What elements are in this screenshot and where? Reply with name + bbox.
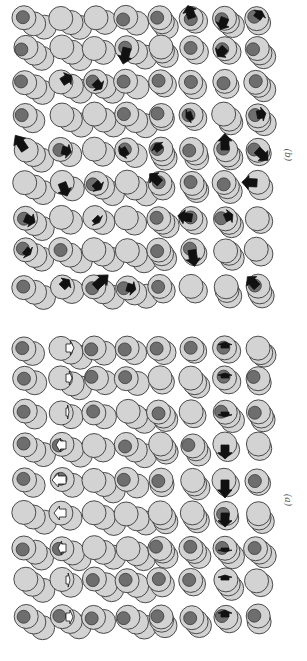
panel-label-a: (a)	[283, 494, 293, 506]
panel-b: (b)	[0, 0, 307, 330]
panel-a: (a)	[0, 330, 307, 661]
disk-array-b	[0, 0, 307, 330]
panel-label-b: (b)	[283, 149, 293, 162]
disk-array-a	[0, 330, 307, 661]
